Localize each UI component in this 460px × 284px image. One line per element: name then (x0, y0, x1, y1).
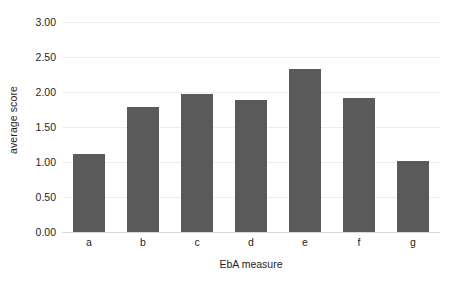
plot-area (62, 22, 440, 232)
y-tick-label: 0.00 (36, 226, 56, 238)
bars-group (62, 22, 440, 232)
y-axis-title-label: average score (7, 86, 19, 154)
bar-b (127, 107, 159, 232)
bar-f (343, 98, 375, 232)
bar-c (181, 94, 213, 232)
x-tick-label-a: a (69, 236, 109, 248)
x-axis-title-label: EbA measure (219, 258, 282, 270)
x-axis-tick-labels: abcdefg (62, 236, 440, 254)
x-tick-label-f: f (339, 236, 379, 248)
y-tick-label: 0.50 (36, 191, 56, 203)
x-axis-title: EbA measure (62, 258, 440, 270)
bar-d (235, 100, 267, 232)
bar-g (397, 161, 429, 232)
y-tick-label: 2.00 (36, 86, 56, 98)
y-axis-tick-labels: 0.000.501.001.502.002.503.00 (26, 0, 60, 284)
x-tick-label-b: b (123, 236, 163, 248)
bar-chart: average score 0.000.501.001.502.002.503.… (0, 0, 460, 284)
bar-e (289, 69, 321, 232)
x-tick-label-e: e (285, 236, 325, 248)
y-tick-label: 1.50 (36, 121, 56, 133)
y-tick-label: 3.00 (36, 16, 56, 28)
x-tick-label-g: g (393, 236, 433, 248)
y-tick-label: 1.00 (36, 156, 56, 168)
gridline-0.00 (62, 232, 440, 233)
x-tick-label-d: d (231, 236, 271, 248)
bar-a (73, 154, 105, 232)
y-tick-label: 2.50 (36, 51, 56, 63)
x-tick-label-c: c (177, 236, 217, 248)
y-axis-title: average score (0, 0, 26, 240)
